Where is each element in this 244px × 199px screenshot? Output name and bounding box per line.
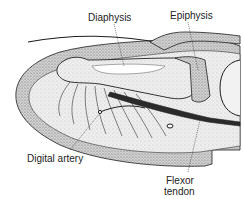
- flexor-tendon-label-line1: Flexor: [166, 175, 194, 186]
- flexor-tendon-label-line2: tendon: [164, 186, 195, 197]
- fingertip-diagram: Diaphysis Epiphysis Digital artery Flexo…: [0, 0, 244, 199]
- fingertip-illustration: [0, 0, 244, 199]
- diaphysis-label: Diaphysis: [88, 12, 131, 23]
- epiphysis-label: Epiphysis: [170, 10, 213, 21]
- digital-artery-label: Digital artery: [27, 153, 83, 164]
